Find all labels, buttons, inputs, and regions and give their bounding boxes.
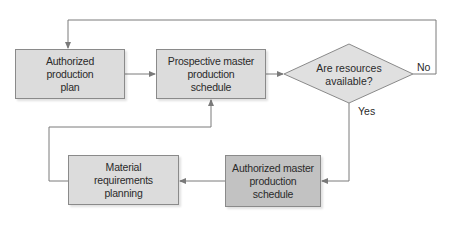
node-text-line: production: [46, 68, 94, 81]
node-text-line: planning: [94, 187, 153, 200]
decision-text: Are resources available?: [300, 62, 398, 88]
node-text-line: requirements: [94, 174, 153, 187]
yes-label: Yes: [358, 105, 375, 117]
node-text-line: production: [168, 68, 254, 81]
node-text-line: Material: [94, 161, 153, 174]
node-text-line: Are resources: [300, 62, 398, 75]
material-requirements-planning-box: Material requirements planning: [68, 155, 179, 205]
node-text-line: schedule: [168, 81, 254, 94]
authorized-mps-box: Authorized master production schedule: [225, 155, 321, 207]
node-text-line: production: [232, 175, 314, 188]
node-text-line: schedule: [232, 188, 314, 201]
node-text-line: available?: [300, 75, 398, 88]
authorized-production-plan-box: Authorized production plan: [15, 49, 125, 99]
node-text-line: Authorized: [46, 55, 94, 68]
node-text-line: plan: [46, 81, 94, 94]
prospective-mps-box: Prospective master production schedule: [156, 49, 266, 99]
node-text-line: Prospective master: [168, 55, 254, 68]
no-label: No: [417, 61, 430, 73]
node-text-line: Authorized master: [232, 162, 314, 175]
